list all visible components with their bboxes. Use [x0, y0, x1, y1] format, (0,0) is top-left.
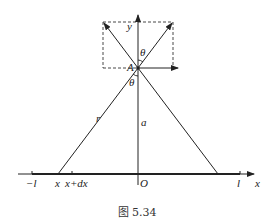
label-x-axis: x [255, 178, 260, 189]
label-pos-l: l [237, 178, 240, 189]
label-point-A: A [127, 62, 134, 73]
label-neg-l: −l [26, 178, 36, 189]
label-r: r [96, 113, 100, 124]
label-theta-top: θ [140, 47, 145, 58]
point-A [136, 66, 140, 70]
label-origin: O [140, 178, 148, 189]
label-y-axis: y [127, 21, 132, 32]
angle-arc-top [138, 60, 143, 62]
figure-caption: 图 5.34 [0, 203, 274, 219]
label-x-plus-dx: x+dx [65, 178, 88, 189]
diagram-canvas [0, 0, 274, 224]
label-theta-bottom: θ [129, 77, 134, 88]
label-a: a [141, 117, 147, 128]
label-x: x [55, 178, 60, 189]
